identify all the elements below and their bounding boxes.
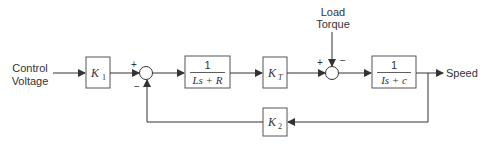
mechanical-numerator: 1 <box>391 59 397 71</box>
output-label: Speed <box>446 67 478 79</box>
svg-text:K: K <box>90 66 100 80</box>
k2-sub: 2 <box>278 122 282 131</box>
k1-sub: 1 <box>102 73 106 82</box>
block-k1: K 1 <box>86 57 110 88</box>
block-diagram: Control Voltage K 1 + − 1 Ls + R K T Loa… <box>0 0 493 146</box>
summing-junction-1: + − <box>131 59 152 92</box>
k2-main: K <box>267 115 277 129</box>
disturbance-label-line2: Torque <box>316 18 350 30</box>
sum2-minus-sign: − <box>340 55 346 66</box>
kt-main: K <box>267 66 277 80</box>
sum1-plus-sign: + <box>131 59 137 70</box>
block-k2: K 2 <box>263 108 287 136</box>
electrical-denominator: Ls + R <box>191 74 222 86</box>
input-label-line2: Voltage <box>12 75 49 87</box>
mechanical-denominator: Is + c <box>380 74 407 86</box>
block-electrical: 1 Ls + R <box>185 56 230 88</box>
input-label-line1: Control <box>12 62 47 74</box>
disturbance-label-line1: Load <box>321 6 345 18</box>
kt-sub: T <box>278 73 283 82</box>
sum1-minus-sign: − <box>134 81 140 92</box>
block-kt: K T <box>263 57 287 88</box>
electrical-numerator: 1 <box>204 59 210 71</box>
sum2-plus-sign: + <box>317 57 323 68</box>
k1-main: K <box>90 66 100 80</box>
block-mechanical: 1 Is + c <box>372 56 416 88</box>
